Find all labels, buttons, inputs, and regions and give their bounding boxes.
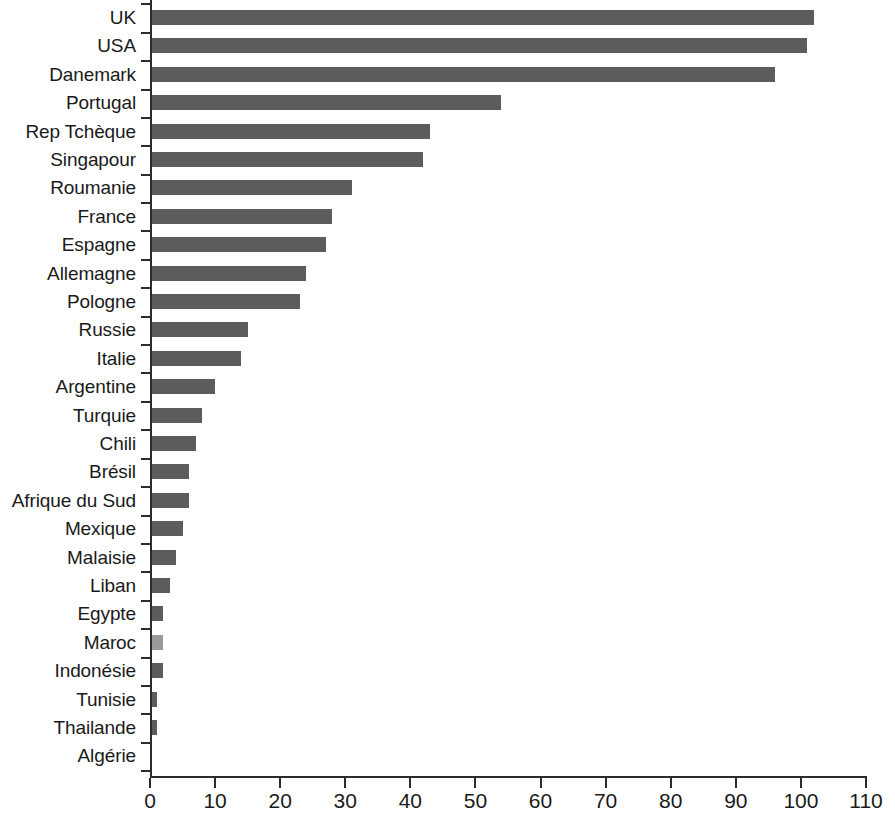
bar: [150, 550, 176, 565]
bar: [150, 436, 196, 451]
category-label: Mexique: [65, 519, 136, 538]
x-axis-tick-label: 0: [144, 790, 156, 811]
y-axis-tick: [141, 515, 150, 517]
horizontal-bar-chart: UKUSADanemarkPortugalRep TchèqueSingapou…: [0, 0, 895, 817]
y-axis-tick: [141, 486, 150, 488]
bar: [150, 10, 814, 25]
category-label: UK: [110, 8, 136, 27]
y-axis-tick: [141, 458, 150, 460]
y-axis-tick: [141, 429, 150, 431]
category-label: Espagne: [62, 235, 136, 254]
category-label: Turquie: [73, 406, 136, 425]
x-axis-tick: [149, 778, 151, 788]
y-axis-tick: [141, 230, 150, 232]
category-label: Russie: [79, 320, 136, 339]
x-axis-line: [150, 776, 867, 778]
bar: [150, 521, 183, 536]
y-axis-tick: [141, 657, 150, 659]
y-axis-tick: [141, 316, 150, 318]
x-axis-tick: [865, 778, 867, 788]
x-axis-tick: [800, 778, 802, 788]
y-axis-tick: [141, 32, 150, 34]
bar: [150, 266, 306, 281]
x-axis-tick-label: 110: [849, 790, 882, 811]
y-axis-tick: [141, 372, 150, 374]
y-axis-tick: [141, 145, 150, 147]
category-label: Maroc: [84, 633, 136, 652]
x-axis-tick-label: 100: [783, 790, 818, 811]
x-axis-tick-label: 80: [659, 790, 682, 811]
bar: [150, 351, 241, 366]
x-axis-tick: [735, 778, 737, 788]
category-label: USA: [97, 36, 136, 55]
y-axis-tick: [141, 770, 150, 772]
y-axis-tick: [141, 401, 150, 403]
x-axis-tick: [409, 778, 411, 788]
x-axis-tick: [540, 778, 542, 788]
y-axis-tick: [141, 117, 150, 119]
category-label: Roumanie: [50, 178, 136, 197]
x-axis-tick: [670, 778, 672, 788]
x-axis-tick-label: 70: [594, 790, 617, 811]
y-axis-tick: [141, 287, 150, 289]
category-label: Egypte: [77, 604, 136, 623]
y-axis-tick: [141, 3, 150, 5]
category-label: Danemark: [49, 65, 136, 84]
plot-area: [150, 0, 866, 777]
category-label: Rep Tchèque: [25, 122, 136, 141]
x-axis-tick: [344, 778, 346, 788]
y-axis-tick: [141, 344, 150, 346]
category-label: France: [77, 207, 136, 226]
category-label: Brésil: [89, 462, 136, 481]
x-axis-tick: [214, 778, 216, 788]
y-axis-tick: [141, 685, 150, 687]
y-axis-tick: [141, 742, 150, 744]
category-label: Argentine: [56, 377, 136, 396]
x-axis-tick-label: 30: [334, 790, 357, 811]
x-axis-tick-label: 40: [399, 790, 422, 811]
bar: [150, 493, 189, 508]
bar: [150, 578, 170, 593]
y-axis-tick: [141, 628, 150, 630]
bar: [150, 124, 430, 139]
y-axis-tick: [141, 259, 150, 261]
y-axis-tick: [141, 174, 150, 176]
y-axis-category-labels: UKUSADanemarkPortugalRep TchèqueSingapou…: [0, 0, 141, 777]
category-label: Allemagne: [47, 264, 136, 283]
category-label: Indonésie: [54, 661, 136, 680]
category-label: Malaisie: [67, 548, 136, 567]
bar: [150, 180, 352, 195]
bar: [150, 322, 248, 337]
y-axis-tick: [141, 89, 150, 91]
bar: [150, 95, 501, 110]
bar: [150, 408, 202, 423]
x-axis-tick-label: 50: [464, 790, 487, 811]
y-axis-tick: [141, 600, 150, 602]
bar: [150, 379, 215, 394]
bar: [150, 209, 332, 224]
x-axis-tick-label: 20: [268, 790, 291, 811]
category-label: Portugal: [66, 93, 136, 112]
y-axis-tick: [141, 713, 150, 715]
y-axis-tick: [141, 571, 150, 573]
category-label: Tunisie: [76, 690, 136, 709]
category-label: Pologne: [67, 292, 136, 311]
x-axis-tick: [474, 778, 476, 788]
category-label: Algérie: [78, 746, 136, 765]
y-axis-line: [150, 0, 152, 777]
y-axis-tick: [141, 60, 150, 62]
x-axis-tick: [279, 778, 281, 788]
category-label: Singapour: [50, 150, 136, 169]
bar: [150, 464, 189, 479]
category-label: Liban: [90, 576, 136, 595]
bar: [150, 38, 807, 53]
x-axis-tick-label: 60: [529, 790, 552, 811]
category-label: Chili: [100, 434, 136, 453]
bar: [150, 67, 775, 82]
y-axis-tick: [141, 543, 150, 545]
x-axis-tick-label: 10: [203, 790, 226, 811]
x-axis-tick: [605, 778, 607, 788]
bar: [150, 152, 423, 167]
x-axis-tick-label: 90: [724, 790, 747, 811]
y-axis-tick: [141, 202, 150, 204]
